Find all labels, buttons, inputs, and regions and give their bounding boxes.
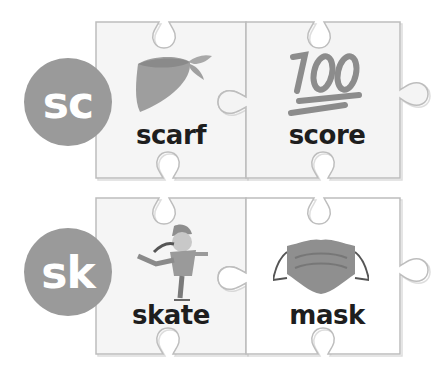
blend-label: sc bbox=[43, 77, 93, 128]
blend-label: sk bbox=[41, 247, 94, 298]
word-label: scarf bbox=[96, 120, 246, 150]
hundred-points-icon bbox=[287, 47, 367, 119]
ice-skater-icon bbox=[130, 220, 210, 302]
scarf-icon bbox=[130, 50, 220, 116]
word-label: mask bbox=[252, 300, 402, 330]
word-label: skate bbox=[96, 300, 246, 330]
word-label: score bbox=[252, 120, 402, 150]
face-mask-icon bbox=[273, 238, 369, 298]
